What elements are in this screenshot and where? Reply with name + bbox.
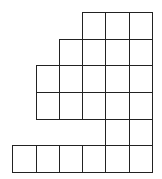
grid-cell [82, 145, 106, 173]
grid-cell [105, 145, 130, 173]
grid-cell [59, 39, 83, 66]
grid-cell [59, 65, 83, 93]
grid-cell [129, 39, 153, 66]
grid-cell [105, 119, 130, 146]
grid-cell [82, 39, 106, 66]
grid-cell [36, 65, 60, 93]
grid-cell [105, 65, 130, 93]
grid-cell [129, 92, 153, 120]
grid-cell [36, 92, 60, 120]
grid-cell [105, 39, 130, 66]
grid-cell [36, 145, 60, 173]
grid-cell [82, 12, 106, 40]
grid-cell [82, 92, 106, 120]
grid-cell [129, 119, 153, 146]
grid-cell [59, 92, 83, 120]
grid-cell [105, 92, 130, 120]
grid-cell [59, 145, 83, 173]
grid-cell [82, 65, 106, 93]
grid-cell [129, 12, 153, 40]
grid-cell [129, 145, 153, 173]
cell-grid-diagram [0, 0, 162, 179]
grid-cell [12, 145, 37, 173]
grid-cell [129, 65, 153, 93]
grid-cell [105, 12, 130, 40]
